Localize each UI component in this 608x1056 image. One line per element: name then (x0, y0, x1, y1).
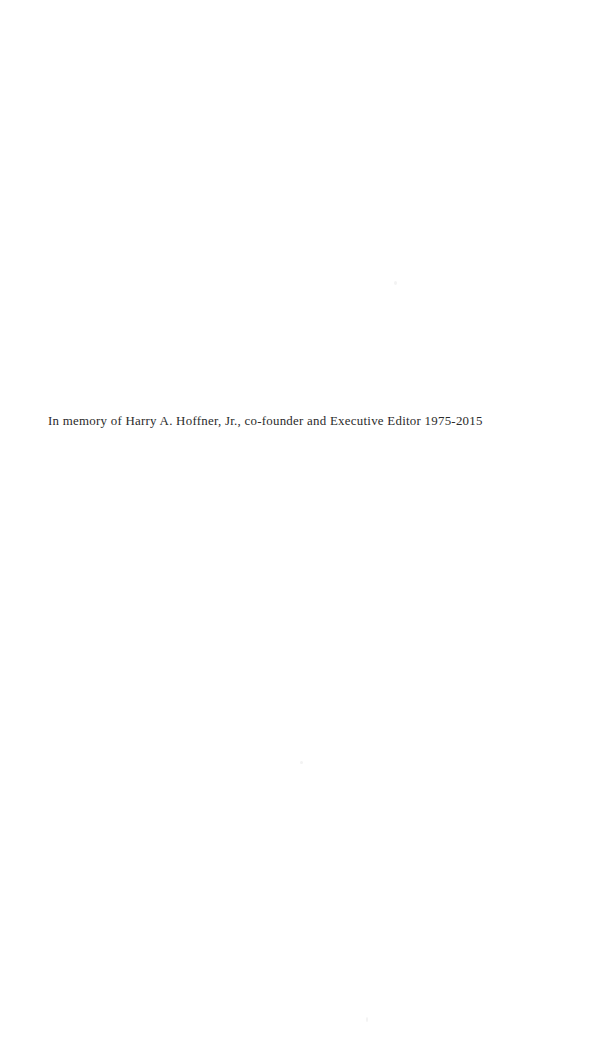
dedication-text: In memory of Harry A. Hoffner, Jr., co-f… (48, 413, 554, 430)
dedication-page: In memory of Harry A. Hoffner, Jr., co-f… (0, 0, 608, 1056)
scan-speck-icon (300, 761, 303, 764)
scan-speck-icon (394, 281, 397, 285)
scan-speck-icon (366, 1017, 368, 1022)
